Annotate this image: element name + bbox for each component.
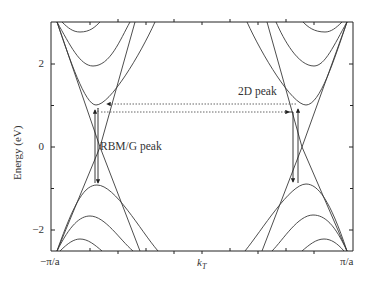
y-axis-label: Energy (eV) bbox=[11, 126, 23, 180]
band-curves bbox=[57, 22, 347, 251]
x-axis-label: kT bbox=[197, 256, 206, 271]
rbm-g-transition-arrows bbox=[95, 108, 98, 183]
band-structure-plot bbox=[0, 0, 380, 283]
y-tick-label-0: 0 bbox=[20, 140, 44, 152]
x-axis-sub: T bbox=[202, 262, 206, 271]
x-left-text: −π/a bbox=[40, 255, 60, 267]
2d-peak-dotted-arrows bbox=[98, 104, 296, 112]
x-tick-label-right: π/a bbox=[340, 255, 354, 267]
annotation-2d-peak: 2D peak bbox=[238, 85, 277, 97]
x-right-text: π/a bbox=[340, 255, 354, 267]
annotation-rbm-g-peak: RBM/G peak bbox=[100, 140, 162, 152]
y-tick-label-minus-2: −2 bbox=[20, 223, 44, 235]
x-tick-label-left: −π/a bbox=[40, 255, 60, 267]
y-tick-label-2: 2 bbox=[20, 57, 44, 69]
